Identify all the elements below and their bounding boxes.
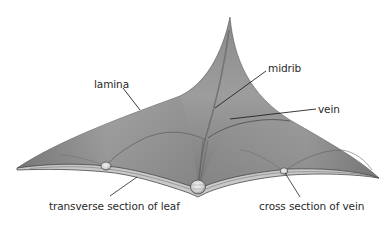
vein-cross-section-right bbox=[280, 168, 288, 174]
label-lamina: lamina bbox=[94, 79, 129, 90]
label-transverse-section: transverse section of leaf bbox=[49, 201, 180, 212]
leaf-diagram: lamina midrib vein transverse section of… bbox=[0, 0, 392, 228]
left-lobe-shade bbox=[17, 96, 198, 188]
leader-transverse bbox=[110, 177, 137, 196]
midrib-cross-section bbox=[191, 180, 206, 194]
vein-cross-section-left bbox=[101, 162, 111, 170]
label-cross-section-vein: cross section of vein bbox=[259, 201, 364, 212]
leader-lamina bbox=[123, 88, 140, 110]
label-midrib: midrib bbox=[268, 63, 301, 74]
leader-cross bbox=[285, 173, 300, 197]
label-vein: vein bbox=[318, 104, 340, 115]
